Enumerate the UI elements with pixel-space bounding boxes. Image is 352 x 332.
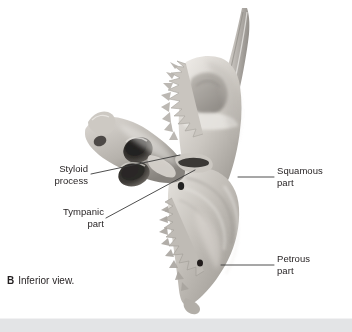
bone-specimen xyxy=(85,8,249,314)
label-petrous-part: Petrous part xyxy=(277,253,351,276)
label-tympanic-line2: part xyxy=(28,218,104,230)
label-tympanic-part: Tympanic part xyxy=(28,206,104,229)
label-squamous-line2: part xyxy=(277,177,351,189)
label-styloid-line1: Styloid xyxy=(59,163,88,174)
figure-caption: BInferior view. xyxy=(7,275,74,287)
mastoid-foramen xyxy=(197,259,203,266)
page-footer-bar xyxy=(0,318,352,332)
small-foramen-mid xyxy=(178,182,184,190)
label-squamous-line1: Squamous xyxy=(277,165,323,176)
label-styloid-line2: process xyxy=(12,175,88,187)
label-squamous-part: Squamous part xyxy=(277,165,351,188)
caption-text: Inferior view. xyxy=(18,275,74,286)
label-styloid-process: Styloid process xyxy=(12,163,88,186)
label-tympanic-line1: Tympanic xyxy=(63,206,104,217)
label-petrous-line2: part xyxy=(277,265,351,277)
caption-letter: B xyxy=(7,275,14,286)
label-petrous-line1: Petrous xyxy=(277,253,310,264)
